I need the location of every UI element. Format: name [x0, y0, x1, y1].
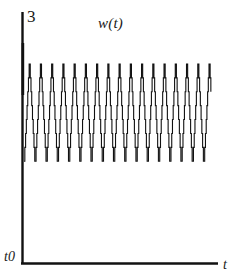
y-axis-max-label: 3 — [27, 8, 36, 25]
waveform-figure: 3 w(t) t0 t — [0, 0, 237, 280]
waveform-group — [22, 43, 211, 161]
waveform-trace — [24, 64, 211, 161]
series-title-label: w(t) — [98, 16, 123, 31]
waveform-onset-marker — [22, 43, 25, 95]
plot-canvas — [0, 0, 237, 280]
x-axis-label: t — [223, 258, 227, 272]
origin-label: t0 — [4, 250, 15, 264]
axes-group — [21, 12, 218, 264]
